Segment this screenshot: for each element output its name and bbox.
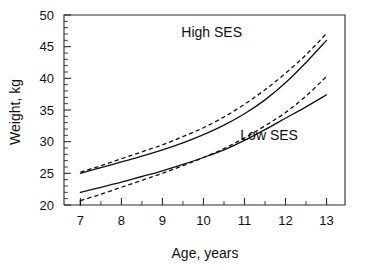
series-label-high-ses: High SES — [181, 24, 242, 40]
y-tick-label: 30 — [40, 134, 54, 149]
y-tick-label: 25 — [40, 166, 54, 181]
x-tick-label: 10 — [196, 213, 210, 228]
y-axis-title: Weight, kg — [7, 79, 23, 145]
x-tick-label: 12 — [278, 213, 292, 228]
series-label-low-ses: Low SES — [240, 127, 298, 143]
x-tick-label: 8 — [118, 213, 125, 228]
x-tick-label: 11 — [238, 213, 252, 228]
x-tick-label: 13 — [319, 213, 333, 228]
x-tick-label: 9 — [159, 213, 166, 228]
chart-background — [0, 0, 370, 270]
y-tick-label: 35 — [40, 103, 54, 118]
y-tick-label: 45 — [40, 39, 54, 54]
x-tick-label: 7 — [77, 213, 84, 228]
y-tick-label: 50 — [40, 8, 54, 23]
y-tick-label: 40 — [40, 71, 54, 86]
x-axis-title: Age, years — [172, 245, 239, 261]
chart-figure: 20253035404550 78910111213 High SESLow S… — [0, 0, 370, 270]
weight-by-age-line-chart: 20253035404550 78910111213 High SESLow S… — [0, 0, 370, 270]
y-tick-label: 20 — [40, 198, 54, 213]
